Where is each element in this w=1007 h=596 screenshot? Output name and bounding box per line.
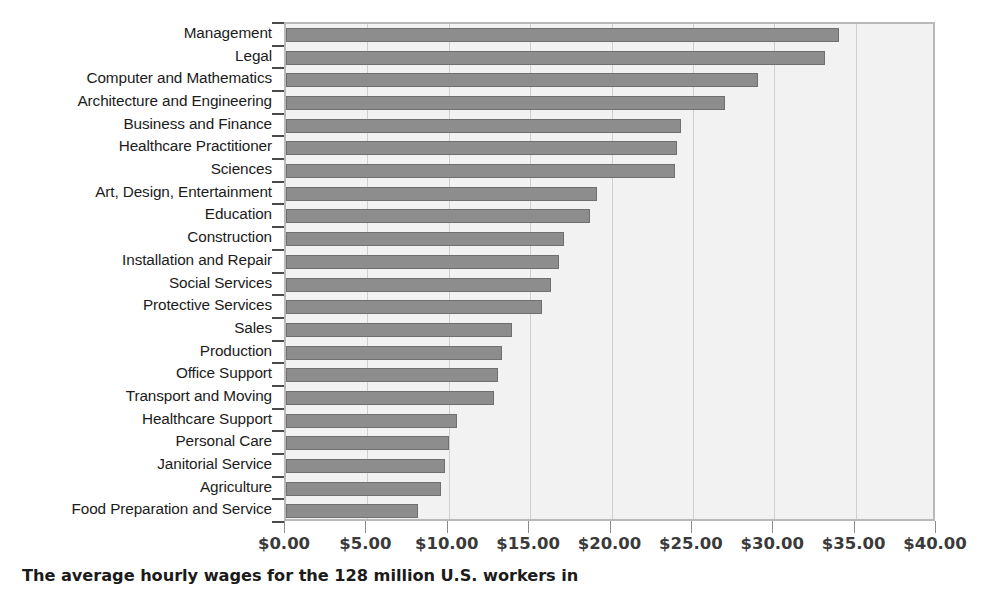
y-axis-label: Protective Services	[143, 294, 272, 317]
x-axis-tick-label: $35.00	[822, 534, 886, 553]
chart-caption: The average hourly wages for the 128 mil…	[22, 566, 578, 585]
y-axis-tick	[272, 203, 284, 205]
bar	[286, 391, 494, 405]
y-axis-tick	[272, 226, 284, 228]
bar-row	[286, 296, 937, 319]
y-axis-label: Architecture and Engineering	[78, 90, 272, 113]
y-axis-label: Education	[205, 203, 272, 226]
bar-row	[286, 183, 937, 206]
y-axis-label: Healthcare Support	[142, 408, 272, 431]
bar-row	[286, 342, 937, 365]
bar	[286, 73, 758, 87]
y-axis-label: Art, Design, Entertainment	[95, 181, 272, 204]
x-axis-tick-label: $25.00	[659, 534, 723, 553]
y-axis-label: Agriculture	[200, 476, 272, 499]
y-axis-label: Sales	[234, 317, 272, 340]
bar	[286, 255, 559, 269]
y-axis-label: Janitorial Service	[157, 453, 272, 476]
bar-row	[286, 432, 937, 455]
y-axis-tick	[272, 272, 284, 274]
y-axis-label: Food Preparation and Service	[72, 498, 272, 521]
bar-row	[286, 478, 937, 501]
x-axis-tick-labels: $0.00$5.00$10.00$15.00$20.00$25.00$30.00…	[0, 519, 1007, 553]
bar	[286, 323, 512, 337]
bar	[286, 141, 677, 155]
y-axis-tick	[272, 22, 284, 24]
y-axis-label: Management	[184, 22, 272, 45]
bar	[286, 232, 564, 246]
bar-row	[286, 24, 937, 47]
y-axis-label: Computer and Mathematics	[87, 67, 273, 90]
plot-area	[284, 22, 935, 521]
x-axis-tick-label: $15.00	[496, 534, 560, 553]
bar	[286, 96, 725, 110]
y-axis-tick	[272, 249, 284, 251]
bar-row	[286, 137, 937, 160]
y-axis-tick	[272, 158, 284, 160]
plot-inner	[286, 24, 933, 519]
y-axis-tick	[272, 430, 284, 432]
y-axis-label: Personal Care	[176, 430, 272, 453]
y-axis-tick	[272, 476, 284, 478]
bar-row	[286, 274, 937, 297]
x-axis-tick-label: $5.00	[339, 534, 391, 553]
y-axis-label: Installation and Repair	[122, 249, 272, 272]
x-axis-tick-label: $10.00	[415, 534, 479, 553]
x-axis-tick-label: $0.00	[258, 534, 310, 553]
y-axis-label: Construction	[187, 226, 272, 249]
bar	[286, 368, 498, 382]
y-axis-tick	[272, 294, 284, 296]
bar	[286, 436, 449, 450]
y-axis-tick	[272, 385, 284, 387]
bar	[286, 51, 825, 65]
bar	[286, 504, 418, 518]
y-axis-tick	[272, 317, 284, 319]
bar-row	[286, 251, 937, 274]
bar	[286, 300, 542, 314]
y-axis-labels: ManagementLegalComputer and MathematicsA…	[0, 22, 272, 521]
bar	[286, 119, 681, 133]
y-axis-tick	[272, 135, 284, 137]
y-axis-label: Office Support	[176, 362, 272, 385]
bar	[286, 164, 675, 178]
bar	[286, 187, 597, 201]
bar-row	[286, 387, 937, 410]
bar	[286, 482, 441, 496]
y-axis-label: Transport and Moving	[126, 385, 272, 408]
bar	[286, 28, 839, 42]
x-axis-tick-label: $40.00	[903, 534, 967, 553]
y-axis-label: Healthcare Practitioner	[119, 135, 272, 158]
y-axis-tick	[272, 45, 284, 47]
y-axis-tick	[272, 181, 284, 183]
bar-row	[286, 205, 937, 228]
y-axis-label: Production	[200, 340, 272, 363]
bar-row	[286, 92, 937, 115]
bar-row	[286, 228, 937, 251]
y-axis-tick	[272, 498, 284, 500]
y-axis-label: Legal	[235, 45, 272, 68]
bar-row	[286, 115, 937, 138]
y-axis-label: Social Services	[169, 272, 272, 295]
y-axis-tick	[272, 362, 284, 364]
bar-row	[286, 455, 937, 478]
y-axis-tick	[272, 453, 284, 455]
y-axis-tick	[272, 340, 284, 342]
horizontal-bar-chart: ManagementLegalComputer and MathematicsA…	[0, 0, 1007, 596]
y-axis-tick	[272, 67, 284, 69]
x-axis-tick-label: $20.00	[578, 534, 642, 553]
bar-row	[286, 410, 937, 433]
bar-row	[286, 319, 937, 342]
y-axis-label: Business and Finance	[123, 113, 272, 136]
bar-row	[286, 160, 937, 183]
bar-row	[286, 69, 937, 92]
bar	[286, 459, 445, 473]
y-axis-tick	[272, 113, 284, 115]
bar-row	[286, 47, 937, 70]
y-axis-label: Sciences	[211, 158, 272, 181]
bar	[286, 209, 590, 223]
y-axis-tick	[272, 408, 284, 410]
bar	[286, 414, 457, 428]
x-axis-tick-label: $30.00	[740, 534, 804, 553]
bar	[286, 278, 551, 292]
bar	[286, 346, 502, 360]
